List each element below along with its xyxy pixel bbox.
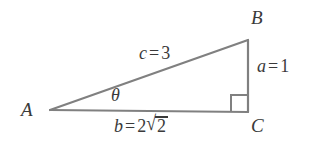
side-label-hypotenuse: c=3 — [139, 44, 170, 62]
side-a-variable: a — [257, 56, 266, 76]
side-label-adjacent: b=2√2 — [114, 117, 168, 135]
side-b-variable: b — [114, 116, 123, 136]
side-b-coefficient: 2 — [137, 116, 146, 136]
vertex-label-a: A — [21, 100, 33, 119]
angle-label-theta: θ — [111, 86, 120, 104]
vertex-label-c: C — [251, 116, 264, 135]
side-c-equals: = — [147, 43, 161, 63]
side-b-radicand: 2 — [156, 117, 168, 135]
side-a-value: 1 — [280, 56, 289, 76]
side-c-value: 3 — [161, 43, 170, 63]
side-label-opposite: a=1 — [257, 57, 289, 75]
triangle-diagram-canvas: A B C θ c=3 a=1 b=2√2 — [0, 0, 314, 148]
side-a-equals: = — [266, 56, 280, 76]
right-angle-marker — [231, 95, 248, 112]
side-b-equals: = — [123, 116, 137, 136]
side-c-variable: c — [139, 43, 147, 63]
vertex-label-b: B — [251, 8, 263, 27]
square-root-expression: √2 — [146, 117, 168, 135]
